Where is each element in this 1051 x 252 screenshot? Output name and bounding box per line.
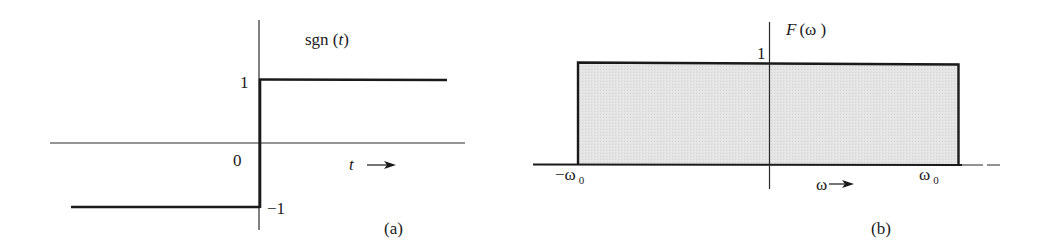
- panel-b-right-edge-label: ω0: [919, 165, 939, 186]
- panel-a-x-axis-var: t: [349, 155, 355, 174]
- panel-a-function-label: sgn (t): [305, 30, 349, 49]
- panel-a-x-arrow-icon: [367, 161, 396, 169]
- panel-b-gate-fill: [578, 63, 959, 165]
- panel-a-y-tick-pos: 1: [240, 73, 249, 92]
- panel-a-y-tick-neg: −1: [267, 199, 285, 218]
- panel-b-x-axis-var: ω: [816, 175, 827, 194]
- figure-canvas: sgn (t) 1 0 t −1 (a) F(ω ) 1 −ω0 ω0: [0, 0, 1051, 252]
- panel-a-caption: (a): [384, 219, 403, 238]
- panel-a-origin-label: 0: [233, 151, 242, 170]
- panel-b-y-tick: 1: [757, 44, 766, 63]
- panel-b-rect-spectrum: F(ω ) 1 −ω0 ω0 ω (b): [533, 20, 1000, 238]
- panel-b-caption: (b): [871, 219, 891, 238]
- panel-b-left-edge-label: −ω0: [555, 165, 585, 186]
- panel-b-x-arrow-icon: [829, 180, 854, 188]
- panel-b-x-axis: [533, 165, 962, 166]
- panel-a-level-pos-one: [259, 80, 447, 81]
- panel-b-function-label: F(ω ): [785, 20, 826, 39]
- panel-a-sign-function: sgn (t) 1 0 t −1 (a): [50, 20, 465, 238]
